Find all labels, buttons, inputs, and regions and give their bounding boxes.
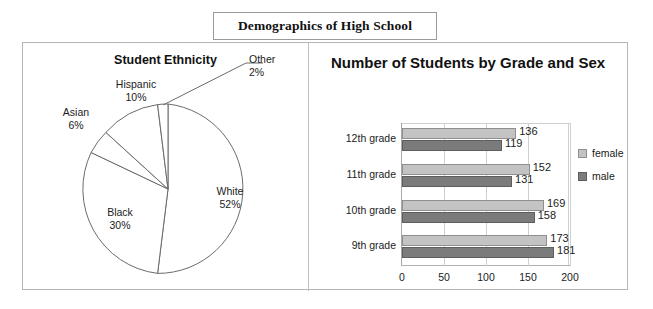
bar-female [402, 200, 544, 211]
pie-label-asian-pct: 6% [68, 119, 83, 131]
page-title: Demographics of High School [213, 12, 437, 40]
bar-group: 9th grade173181 [402, 230, 570, 266]
pie-label-other-name: Other [249, 53, 275, 65]
pie-label-white: White 52% [199, 185, 261, 210]
pie-label-asian: Asian 6% [45, 106, 107, 131]
bar-group: 11th grade152131 [402, 159, 570, 195]
category-label: 10th grade [310, 204, 396, 216]
bar-value-male: 181 [557, 244, 575, 256]
pie-label-black: Black 30% [89, 206, 151, 231]
x-axis-tick-label: 100 [471, 271, 501, 283]
pie-leader-line-other [163, 63, 263, 105]
category-label: 11th grade [310, 168, 396, 180]
category-label: 9th grade [310, 239, 396, 251]
pie-label-hispanic-pct: 10% [125, 91, 146, 103]
legend-swatch-female-icon [578, 149, 587, 158]
bar-value-female: 173 [550, 232, 568, 244]
bar-group: 12th grade136119 [402, 123, 570, 159]
bar-female [402, 235, 547, 246]
bar-male [402, 176, 512, 187]
pie-label-white-pct: 52% [219, 198, 240, 210]
bar-chart-title: Number of Students by Grade and Sex [323, 53, 613, 72]
bar-chart-legend: female male [578, 147, 624, 193]
x-axis-tick-label: 0 [387, 271, 417, 283]
pie-label-other-pct: 2% [249, 66, 264, 78]
bar-male [402, 212, 535, 223]
bar-value-male: 119 [505, 137, 523, 149]
pie-label-black-name: Black [107, 206, 133, 218]
bar-male [402, 140, 502, 151]
bar-value-female: 152 [533, 161, 551, 173]
pie-chart-panel: Student Ethnicity Other 2% Hispanic 10% … [23, 43, 308, 289]
bar-female [402, 128, 516, 139]
pie-label-hispanic: Hispanic 10% [97, 78, 175, 103]
legend-swatch-male-icon [578, 172, 587, 181]
charts-frame: Student Ethnicity Other 2% Hispanic 10% … [22, 42, 628, 290]
bar-value-female: 169 [547, 197, 565, 209]
x-axis-tick-label: 150 [513, 271, 543, 283]
pie-label-black-pct: 30% [109, 219, 130, 231]
bar-value-female: 136 [519, 125, 537, 137]
pie-label-white-name: White [217, 185, 244, 197]
legend-label-male: male [592, 170, 615, 182]
x-axis-tick-label: 200 [555, 271, 585, 283]
legend-item-female[interactable]: female [578, 147, 624, 159]
bar-female [402, 164, 530, 175]
legend-label-female: female [592, 147, 624, 159]
pie-label-hispanic-name: Hispanic [116, 78, 156, 90]
bar-value-male: 131 [515, 173, 533, 185]
bar-male [402, 247, 554, 258]
pie-label-other: Other 2% [249, 53, 275, 78]
bar-chart-panel: Number of Students by Grade and Sex 0501… [309, 43, 628, 289]
legend-item-male[interactable]: male [578, 170, 624, 182]
x-axis-tick-label: 50 [429, 271, 459, 283]
category-label: 12th grade [310, 132, 396, 144]
bar-chart-plot-area: 05010015020012th grade13611911th grade15… [401, 123, 569, 266]
bar-value-male: 158 [538, 209, 556, 221]
pie-label-asian-name: Asian [63, 106, 89, 118]
page-title-text: Demographics of High School [238, 18, 412, 34]
bar-group: 10th grade169158 [402, 195, 570, 231]
